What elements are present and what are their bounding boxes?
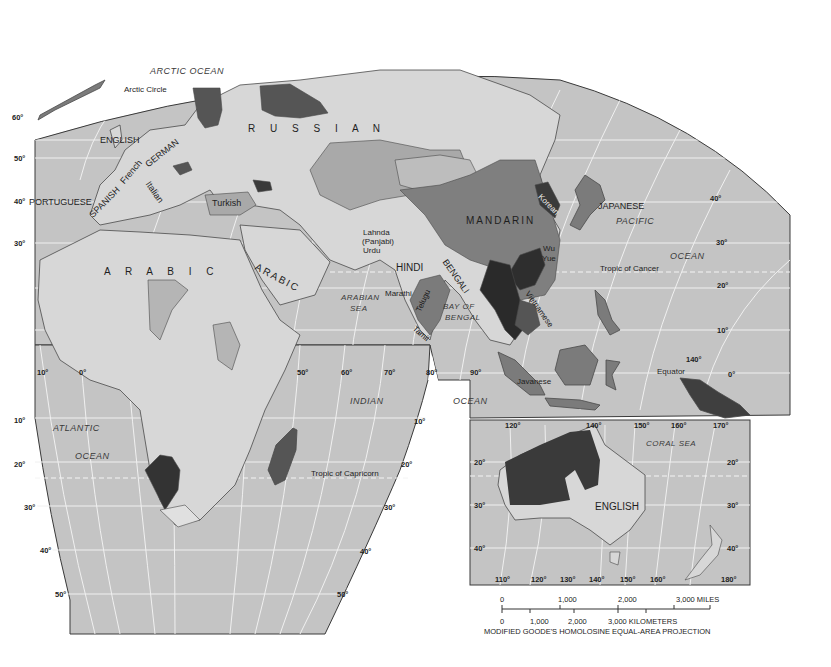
inset-lat-40-right: 40° (727, 545, 738, 553)
lat-label-e40: 40° (710, 195, 721, 203)
lat-label-s30e: 30° (384, 504, 395, 512)
lon-label-70: 70° (384, 369, 395, 377)
language-label-yue: Yue (542, 255, 556, 263)
ocean-label-coral-sea: CORAL SEA (646, 440, 696, 448)
scale-km-2000: 2,000 (568, 617, 587, 626)
lat-label-s50e: 50° (337, 591, 348, 599)
language-label-urdu: Urdu (363, 247, 380, 255)
inset-lon-140-bottom: 140° (589, 576, 605, 584)
ocean-label-indian-2: OCEAN (453, 397, 488, 406)
scale-km-0: 0 (500, 617, 504, 626)
language-label-english-australia: ENGLISH (595, 502, 639, 512)
ocean-label-bay-of-bengal: BAY OF (443, 303, 475, 311)
lat-label-s50w: 50° (55, 591, 66, 599)
ocean-label-arabian-sea-2: SEA (350, 305, 368, 313)
ocean-label-arabian-sea: ARABIAN (341, 294, 380, 302)
ocean-label-atlantic: ATLANTIC (53, 424, 100, 433)
language-label-russian: R U S S I A N (248, 124, 386, 134)
inset-lon-120-bottom: 120° (531, 576, 547, 584)
lat-label-s30w: 30° (24, 504, 35, 512)
lat-label-e10: 10° (717, 327, 728, 335)
ocean-label-bay-of-bengal-2: BENGAL (445, 314, 480, 322)
inset-lon-170-top: 170° (713, 422, 729, 430)
equator-label: Equator (657, 368, 685, 376)
scale-miles-0: 0 (500, 595, 504, 604)
language-label-panjabi: (Panjabi) (362, 238, 394, 246)
lat-label-s20w: 20° (14, 461, 25, 469)
language-label-marathi: Marathi (385, 290, 412, 298)
language-label-lahnda: Lahnda (363, 229, 390, 237)
inset-lon-130-bottom: 130° (560, 576, 576, 584)
ocean-label-indian: INDIAN (350, 397, 384, 406)
lat-label-e0: 0° (728, 371, 735, 379)
inset-lat-40-left: 40° (474, 545, 485, 553)
inset-lon-150-bottom: 150° (620, 576, 636, 584)
scale-miles-1000: 1,000 (558, 595, 577, 604)
lat-label-e30: 30° (716, 239, 727, 247)
inset-lat-30-right: 30° (727, 502, 738, 510)
scale-km-1000: 1,000 (530, 617, 549, 626)
scale-miles-3000: 3,000 MILES (676, 595, 719, 604)
arctic-circle-label: Arctic Circle (124, 86, 167, 94)
language-label-wu: Wu (543, 245, 555, 253)
greenland (38, 80, 105, 120)
inset-lon-180-bottom: 180° (721, 576, 737, 584)
scale-ruler (478, 605, 778, 617)
lon-label-0: 0° (79, 369, 86, 377)
lon-label-90: 90° (470, 369, 481, 377)
lat-label-40: 40° (14, 198, 25, 206)
inset-lon-160-bottom: 160° (650, 576, 666, 584)
language-label-javanese: Javanese (517, 378, 551, 386)
lat-label-s10e: 10° (414, 418, 425, 426)
ocean-label-arctic: ARCTIC OCEAN (150, 67, 224, 76)
language-label-english-uk: ENGLISH (100, 136, 140, 145)
lon-label-60: 60° (341, 369, 352, 377)
inset-lon-110-bottom: 110° (495, 576, 510, 584)
language-label-arabic: A R A B I C (104, 267, 219, 277)
lat-label-30: 30° (14, 240, 25, 248)
lat-label-50: 50° (14, 155, 25, 163)
lon-label-50: 50° (297, 369, 308, 377)
lat-label-60: 60° (12, 114, 23, 122)
language-label-mandarin: MANDARIN (466, 216, 535, 226)
inset-lon-150-top: 150° (634, 422, 650, 430)
tropic-of-cancer-label: Tropic of Cancer (600, 265, 659, 273)
lon-label-80: 80° (426, 369, 437, 377)
lon-label-10w: 10° (37, 369, 48, 377)
language-label-turkish: Turkish (212, 199, 241, 208)
language-label-portuguese: PORTUGUESE (29, 198, 92, 207)
ocean-label-atlantic-2: OCEAN (75, 452, 110, 461)
lat-label-e20: 20° (717, 282, 728, 290)
ocean-label-pacific: PACIFIC (616, 217, 654, 226)
inset-lat-20-right: 20° (727, 459, 738, 467)
lat-label-s40w: 40° (40, 547, 51, 555)
lat-label-s20e: 20° (401, 461, 412, 469)
inset-lat-20-left: 20° (474, 459, 485, 467)
inset-lon-160-top: 160° (671, 422, 687, 430)
inset-lon-140-top: 140° (586, 422, 602, 430)
projection-note: MODIFIED GOODE'S HOMOLOSINE EQUAL-AREA P… (484, 628, 710, 636)
inset-lon-120-top: 120° (505, 422, 521, 430)
lat-label-s40e: 40° (360, 548, 371, 556)
lon-label-140: 140° (686, 356, 702, 364)
inset-lat-30-left: 30° (474, 502, 485, 510)
tropic-of-capricorn-label: Tropic of Capricorn (311, 470, 379, 478)
language-label-japanese: JAPANESE (598, 202, 644, 211)
scale-km-3000: 3,000 KILOMETERS (608, 617, 677, 626)
language-label-hindi: HINDI (396, 263, 423, 273)
scale-miles-2000: 2,000 (618, 595, 637, 604)
lat-label-s10w: 10° (14, 417, 25, 425)
ocean-label-pacific-2: OCEAN (670, 252, 705, 261)
